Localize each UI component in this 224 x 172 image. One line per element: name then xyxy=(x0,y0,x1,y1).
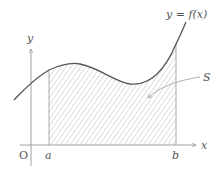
lower-bound-label: a xyxy=(45,149,52,162)
area-diagram: y = f(x) S y x O a b xyxy=(0,0,224,172)
shaded-region-s xyxy=(49,44,176,145)
x-axis-label: x xyxy=(201,139,208,152)
curve-label: y = f(x) xyxy=(165,8,207,21)
upper-bound-label: b xyxy=(172,149,179,162)
origin-label: O xyxy=(19,149,28,162)
region-label: S xyxy=(203,71,211,84)
y-axis-label: y xyxy=(26,32,34,45)
